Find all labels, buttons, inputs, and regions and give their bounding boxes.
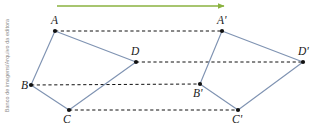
guide-lines-group	[31, 31, 303, 110]
vertex-dot-a	[53, 29, 57, 33]
vertex-label-b-prime: B'	[193, 87, 203, 99]
vertex-dots-group	[29, 29, 305, 112]
vertex-label-a: A	[50, 14, 59, 26]
vertex-dot-b-prime	[198, 82, 202, 86]
quadrilaterals-group	[31, 31, 303, 110]
vertex-dot-a-prime	[220, 29, 224, 33]
quadrilateral-abcd	[31, 31, 136, 110]
vertex-dot-c	[67, 108, 71, 112]
translation-figure: ABCDA'B'C'D' Banco de imagens/Arquivo da…	[0, 0, 322, 131]
vertex-label-d-prime: D'	[297, 45, 309, 57]
vertex-label-a-prime: A'	[216, 14, 227, 26]
vertex-dot-b	[29, 83, 33, 87]
vertex-dot-c-prime	[236, 108, 240, 112]
vertex-label-c: C	[63, 113, 71, 125]
vertex-dot-d-prime	[301, 60, 305, 64]
vertex-label-b: B	[21, 79, 28, 91]
vertex-label-d: D	[130, 45, 140, 57]
vertex-labels-group: ABCDA'B'C'D'	[21, 14, 309, 125]
vertex-dot-d	[134, 60, 138, 64]
guide-b-to-b-prime	[31, 84, 200, 85]
figure-canvas: ABCDA'B'C'D'	[0, 0, 322, 131]
vertex-label-c-prime: C'	[232, 113, 243, 125]
quadrilateral-a-prime-b-prime-c-prime-d-prime	[200, 31, 303, 110]
